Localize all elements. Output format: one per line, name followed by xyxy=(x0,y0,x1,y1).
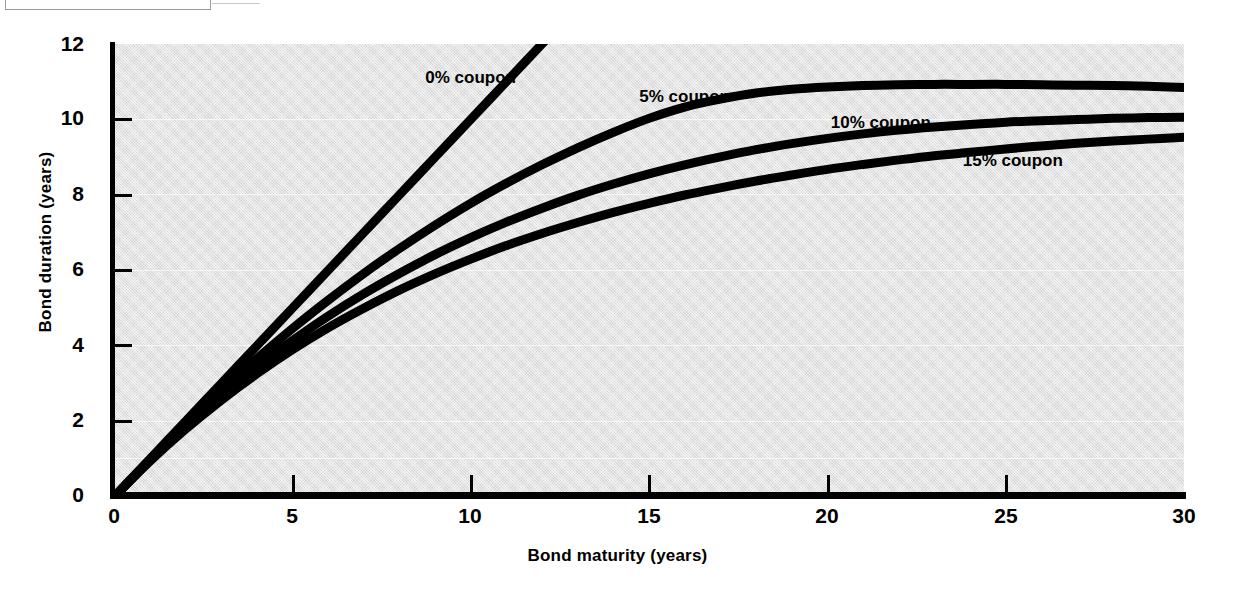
y-tick-4 xyxy=(115,344,132,347)
curve-0-percent-coupon xyxy=(114,44,1184,497)
curve-15-percent-coupon xyxy=(114,137,1184,497)
x-axis-line xyxy=(110,492,1186,499)
x-tick-label-5: 5 xyxy=(262,505,322,526)
x-tick-5 xyxy=(292,475,295,492)
series-label-5-percent-coupon: 5% coupon xyxy=(639,87,730,107)
series-label-0-percent-coupon: 0% coupon xyxy=(425,68,516,88)
x-tick-label-30: 30 xyxy=(1154,505,1214,526)
y-tick-6 xyxy=(115,269,132,272)
bond-duration-chart: 12 10 8 6 4 2 0 0 5 10 15 20 25 30 Bond … xyxy=(0,0,1235,601)
series-label-15-percent-coupon: 15% coupon xyxy=(963,151,1063,171)
x-tick-label-0: 0 xyxy=(84,505,144,526)
y-tick-label-0: 0 xyxy=(24,484,84,505)
x-tick-20 xyxy=(827,475,830,492)
x-tick-10 xyxy=(470,475,473,492)
y-tick-8 xyxy=(115,194,132,197)
x-axis-title: Bond maturity (years) xyxy=(0,546,1235,566)
y-tick-2 xyxy=(115,420,132,423)
x-tick-label-20: 20 xyxy=(797,505,857,526)
x-tick-15 xyxy=(648,475,651,492)
x-tick-label-25: 25 xyxy=(976,505,1036,526)
y-tick-10 xyxy=(115,118,132,121)
series-curves xyxy=(114,44,1184,497)
y-tick-label-12: 12 xyxy=(24,33,84,54)
x-tick-25 xyxy=(1005,475,1008,492)
curve-10-percent-coupon xyxy=(114,117,1184,497)
x-tick-label-15: 15 xyxy=(619,505,679,526)
series-label-10-percent-coupon: 10% coupon xyxy=(831,113,931,133)
y-axis-title: Bond duration (years) xyxy=(36,112,56,372)
x-tick-label-10: 10 xyxy=(440,505,500,526)
y-tick-label-2: 2 xyxy=(24,409,84,430)
